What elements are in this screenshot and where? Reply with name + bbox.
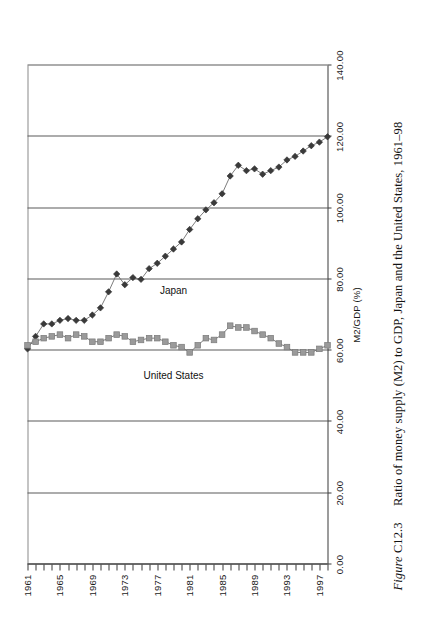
data-point-united-states bbox=[324, 342, 330, 348]
year-tick bbox=[124, 564, 125, 570]
data-point-united-states bbox=[40, 335, 46, 341]
data-point-united-states bbox=[211, 337, 217, 343]
data-point-japan bbox=[145, 265, 151, 271]
year-tick bbox=[205, 564, 206, 570]
caption-figure-word: Figure bbox=[390, 556, 404, 590]
value-tick bbox=[327, 278, 331, 279]
value-tick bbox=[327, 64, 331, 65]
data-point-japan bbox=[218, 190, 224, 196]
year-tick bbox=[286, 564, 287, 570]
caption-text: Ratio of money supply (M2) to GDP, Japan… bbox=[390, 121, 404, 505]
year-tick-label: 1993 bbox=[281, 574, 292, 596]
data-point-united-states bbox=[284, 344, 290, 350]
year-tick-label: 1997 bbox=[313, 574, 324, 596]
year-tick bbox=[141, 564, 142, 570]
value-tick bbox=[327, 492, 331, 493]
year-tick-label: 1973 bbox=[119, 574, 130, 596]
year-tick-label: 1985 bbox=[216, 574, 227, 596]
year-tick bbox=[27, 564, 28, 570]
data-point-japan bbox=[235, 162, 241, 168]
data-point-united-states bbox=[130, 338, 136, 344]
data-point-japan bbox=[56, 317, 62, 323]
data-point-united-states bbox=[243, 324, 249, 330]
data-point-united-states bbox=[49, 333, 55, 339]
year-tick bbox=[165, 564, 166, 570]
figure-page: 0.0020.0040.0060.0080.00100.00120.00140.… bbox=[0, 0, 421, 626]
year-tick bbox=[157, 564, 158, 570]
series-label-japan: Japan bbox=[159, 284, 186, 295]
data-point-japan bbox=[162, 252, 168, 258]
data-point-united-states bbox=[186, 349, 192, 355]
data-point-united-states bbox=[57, 331, 63, 337]
year-tick bbox=[149, 564, 150, 570]
year-tick bbox=[213, 564, 214, 570]
data-point-japan bbox=[202, 206, 208, 212]
data-point-united-states bbox=[170, 342, 176, 348]
year-tick-label: 1961 bbox=[22, 574, 33, 596]
year-tick bbox=[303, 564, 304, 570]
data-point-japan bbox=[40, 320, 46, 326]
year-tick bbox=[278, 564, 279, 570]
data-point-united-states bbox=[105, 335, 111, 341]
year-tick bbox=[262, 564, 263, 570]
data-point-japan bbox=[243, 167, 249, 173]
data-point-united-states bbox=[178, 344, 184, 350]
series-plot bbox=[27, 65, 327, 564]
value-tick-label: 120.00 bbox=[333, 121, 344, 151]
year-tick bbox=[51, 564, 52, 570]
value-tick-label: 60.00 bbox=[333, 338, 344, 363]
data-point-united-states bbox=[235, 324, 241, 330]
year-tick bbox=[108, 564, 109, 570]
data-point-united-states bbox=[138, 337, 144, 343]
year-tick bbox=[254, 564, 255, 570]
data-point-united-states bbox=[316, 346, 322, 352]
data-point-united-states bbox=[89, 338, 95, 344]
data-point-united-states bbox=[292, 349, 298, 355]
year-tick bbox=[59, 564, 60, 570]
year-tick bbox=[238, 564, 239, 570]
data-point-united-states bbox=[32, 338, 38, 344]
year-tick bbox=[189, 564, 190, 570]
value-tick bbox=[327, 207, 331, 208]
year-tick bbox=[43, 564, 44, 570]
year-tick-label: 1965 bbox=[54, 574, 65, 596]
value-tick-label: 140.00 bbox=[333, 50, 344, 80]
year-tick bbox=[116, 564, 117, 570]
data-point-united-states bbox=[251, 328, 257, 334]
data-point-united-states bbox=[259, 331, 265, 337]
data-point-japan bbox=[267, 167, 273, 173]
data-point-japan bbox=[64, 315, 70, 321]
data-point-japan bbox=[113, 270, 119, 276]
series-line-united-states bbox=[27, 325, 327, 352]
year-tick bbox=[173, 564, 174, 570]
year-tick bbox=[311, 564, 312, 570]
data-point-japan bbox=[105, 288, 111, 294]
year-tick bbox=[68, 564, 69, 570]
data-point-united-states bbox=[267, 335, 273, 341]
year-tick bbox=[92, 564, 93, 570]
series-label-united-states: United States bbox=[143, 370, 203, 381]
value-tick-label: 20.00 bbox=[333, 480, 344, 505]
year-tick-label: 1989 bbox=[249, 574, 260, 596]
data-point-united-states bbox=[24, 342, 30, 348]
data-point-japan bbox=[283, 156, 289, 162]
year-tick bbox=[295, 564, 296, 570]
data-point-united-states bbox=[73, 331, 79, 337]
data-point-japan bbox=[316, 138, 322, 144]
data-point-japan bbox=[194, 215, 200, 221]
data-point-united-states bbox=[146, 335, 152, 341]
data-point-japan bbox=[72, 317, 78, 323]
data-point-united-states bbox=[154, 335, 160, 341]
year-tick bbox=[246, 564, 247, 570]
data-point-japan bbox=[291, 153, 297, 159]
data-point-japan bbox=[275, 163, 281, 169]
data-point-united-states bbox=[122, 333, 128, 339]
data-point-united-states bbox=[276, 340, 282, 346]
value-tick-label: 0.00 bbox=[333, 554, 344, 573]
value-tick bbox=[327, 420, 331, 421]
year-tick bbox=[132, 564, 133, 570]
year-tick bbox=[84, 564, 85, 570]
data-point-japan bbox=[48, 320, 54, 326]
data-point-united-states bbox=[97, 338, 103, 344]
caption-figure-number: C12.3 bbox=[390, 522, 404, 553]
